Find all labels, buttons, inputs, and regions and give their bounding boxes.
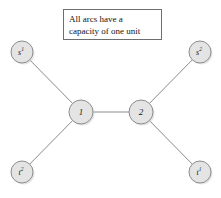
node-t2: t2	[11, 161, 35, 185]
node-t1: t1	[189, 161, 213, 185]
node-s1-superscript: 1	[21, 46, 24, 52]
node-n2: 2	[129, 100, 155, 126]
edge-group	[30, 60, 193, 164]
edge-s1-n1	[30, 60, 73, 104]
edge-s2-n2	[149, 60, 192, 104]
caption-line-1: All arcs have a	[69, 13, 156, 25]
node-t1-superscript: 1	[199, 166, 202, 172]
caption-box: All arcs have a capacity of one unit	[63, 9, 162, 40]
node-n2-label: 2	[139, 107, 144, 117]
node-t1-circle	[189, 161, 211, 183]
network-flow-figure: s1s212t2t1 All arcs have a capacity of o…	[0, 0, 221, 198]
node-n1: 1	[69, 100, 95, 126]
node-s2: s2	[189, 41, 213, 65]
node-n1-label: 1	[79, 107, 84, 117]
node-s2-superscript: 2	[199, 46, 202, 52]
caption-line-2: capacity of one unit	[69, 25, 156, 37]
node-t2-superscript: 2	[21, 166, 24, 172]
edge-n2-t1	[149, 121, 192, 165]
node-t2-circle	[11, 161, 33, 183]
node-s2-circle	[189, 41, 211, 63]
edge-n1-t2	[30, 121, 73, 165]
node-s1: s1	[11, 41, 35, 65]
node-group: s1s212t2t1	[11, 41, 213, 185]
node-s1-circle	[11, 41, 33, 63]
